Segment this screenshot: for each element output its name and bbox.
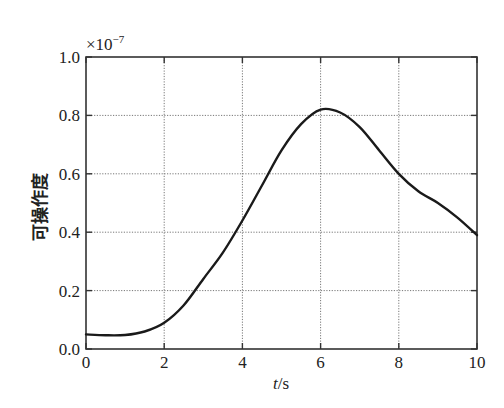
grid-lines (86, 57, 477, 349)
axis-ticks (86, 57, 477, 349)
y-tick-label: 0.0 (59, 340, 80, 359)
y-tick-labels: 0.00.20.40.60.81.0 (59, 48, 81, 359)
chart: 0246810 0.00.20.40.60.81.0 ×10−7 t/s 可操作… (0, 0, 504, 408)
y-multiplier-label: ×10−7 (86, 33, 125, 54)
x-tick-label: 6 (316, 353, 325, 372)
y-tick-label: 0.4 (59, 223, 81, 242)
y-tick-label: 1.0 (59, 48, 80, 67)
data-line (86, 109, 477, 336)
y-tick-label: 0.2 (59, 282, 80, 301)
x-tick-label: 8 (395, 353, 404, 372)
x-tick-label: 4 (238, 353, 247, 372)
x-tick-label: 0 (82, 353, 91, 372)
x-axis-label: t/s (273, 374, 289, 393)
x-tick-labels: 0246810 (82, 353, 486, 372)
x-tick-label: 10 (469, 353, 486, 372)
y-tick-label: 0.6 (59, 165, 80, 184)
x-tick-label: 2 (160, 353, 169, 372)
plot-frame (86, 57, 477, 349)
y-axis-label: 可操作度 (30, 172, 50, 241)
y-tick-label: 0.8 (59, 106, 80, 125)
